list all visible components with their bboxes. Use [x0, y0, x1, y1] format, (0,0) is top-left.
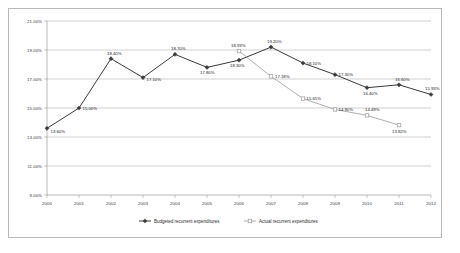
y-axis-tick-label: 9.00%: [30, 193, 43, 198]
data-point-label: 18.10%: [307, 61, 322, 66]
x-axis-tick-label: 2005: [202, 201, 212, 206]
data-point-label: 18.30%: [230, 63, 245, 68]
data-point-marker: [301, 97, 304, 100]
legend-label-actual: Actual recurrent expenditures: [259, 219, 319, 224]
data-point-label: 18.40%: [107, 51, 122, 56]
data-point-label: 17.10%: [147, 77, 162, 82]
y-axis-tick-label: 11.00%: [27, 164, 42, 169]
data-point-marker: [237, 49, 240, 52]
data-point-label: 19.20%: [267, 39, 282, 44]
data-point-label: 15.00%: [83, 106, 98, 111]
legend-label-budgeted: Budgeted recurrent expenditures: [154, 219, 220, 224]
data-point-marker: [397, 123, 400, 126]
data-point-label: 16.60%: [395, 77, 410, 82]
data-point-marker: [205, 65, 209, 69]
data-point-marker: [365, 114, 368, 117]
x-axis-tick-label: 2011: [394, 201, 404, 206]
x-axis-tick-label: 2006: [234, 201, 244, 206]
data-point-marker: [237, 58, 241, 62]
x-axis-tick-label: 2001: [74, 201, 84, 206]
data-point-label: 13.60%: [51, 129, 66, 134]
x-axis-tick-label: 2009: [330, 201, 340, 206]
legend-marker: [248, 219, 251, 222]
data-point-marker: [269, 75, 272, 78]
data-point-marker: [333, 73, 337, 77]
x-axis-tick-label: 2004: [170, 201, 180, 206]
data-point-marker: [365, 86, 369, 90]
x-axis-tick-label: 2010: [362, 201, 372, 206]
data-point-label: 17.80%: [200, 70, 215, 75]
x-axis-tick-label: 2002: [106, 201, 116, 206]
data-point-label: 17.30%: [339, 72, 354, 77]
y-axis-tick-label: 19.00%: [27, 48, 42, 53]
data-point-marker: [397, 83, 401, 87]
chart-plot-area: 21.00%19.00%17.00%15.00%13.00%11.00%9.00…: [9, 9, 441, 237]
data-point-marker: [301, 61, 305, 65]
y-axis-tick-label: 17.00%: [27, 77, 42, 82]
data-point-label: 15.93%: [425, 86, 440, 91]
x-axis-tick-label: 2012: [426, 201, 436, 206]
data-point-marker: [429, 92, 433, 96]
data-point-label: 13.82%: [392, 129, 407, 134]
data-point-label: 15.65%: [307, 96, 322, 101]
data-point-label: 18.70%: [171, 46, 186, 51]
x-axis-tick-label: 2003: [138, 201, 148, 206]
data-point-label: 18.93%: [231, 43, 246, 48]
legend-marker: [143, 219, 147, 223]
y-axis-tick-label: 13.00%: [27, 135, 42, 140]
data-point-label: 17.18%: [275, 74, 290, 79]
data-point-label: 14.90%: [339, 107, 354, 112]
line-chart: 21.00%19.00%17.00%15.00%13.00%11.00%9.00…: [9, 9, 443, 239]
chart-frame: 21.00%19.00%17.00%15.00%13.00%11.00%9.00…: [8, 8, 442, 238]
data-point-label: 14.49%: [365, 107, 380, 112]
x-axis-tick-label: 2007: [266, 201, 276, 206]
data-point-marker: [269, 45, 273, 49]
x-axis-tick-label: 2008: [298, 201, 308, 206]
y-axis-tick-label: 21.00%: [27, 19, 42, 24]
y-axis-tick-label: 15.00%: [27, 106, 42, 111]
data-point-label: 16.40%: [363, 91, 378, 96]
x-axis-tick-label: 2000: [42, 201, 52, 206]
data-point-marker: [333, 108, 336, 111]
